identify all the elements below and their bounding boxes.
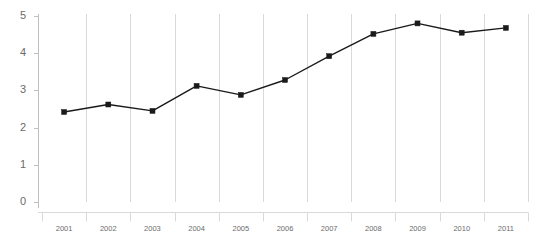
series-markers-0 — [62, 21, 509, 115]
x-axis-tick-label: 2006 — [265, 225, 305, 233]
y-axis-ticks — [34, 17, 39, 203]
y-axis-tick-label: 0 — [4, 196, 26, 207]
x-axis-tick-label: 2002 — [88, 225, 128, 233]
line-chart: 012345 200120022003200420052006200720082… — [0, 0, 536, 240]
y-axis-tick-label: 4 — [4, 47, 26, 58]
x-axis-tick-label: 2010 — [442, 225, 482, 233]
gridlines — [87, 14, 529, 202]
x-axis-tick-label: 2004 — [177, 225, 217, 233]
data-point-marker — [503, 25, 508, 30]
y-axis-tick-label: 5 — [4, 10, 26, 21]
y-axis-tick-label: 2 — [4, 122, 26, 133]
x-axis-tick-label: 2003 — [132, 225, 172, 233]
x-axis-ticks — [43, 213, 529, 222]
data-point-marker — [415, 21, 420, 26]
x-axis-tick-label: 2005 — [221, 225, 261, 233]
data-point-marker — [194, 83, 199, 88]
x-axis-tick-label: 2001 — [44, 225, 84, 233]
chart-plot-area — [0, 0, 536, 240]
data-point-marker — [371, 31, 376, 36]
y-axis-tick-label: 3 — [4, 84, 26, 95]
x-axis-tick-label: 2008 — [353, 225, 393, 233]
y-axis-tick-label: 1 — [4, 159, 26, 170]
x-axis-tick-label: 2007 — [309, 225, 349, 233]
data-point-marker — [106, 102, 111, 107]
x-axis-tick-label: 2011 — [486, 225, 526, 233]
x-axis-tick-label: 2009 — [398, 225, 438, 233]
data-point-marker — [62, 110, 67, 115]
data-point-marker — [283, 78, 288, 83]
data-point-marker — [238, 92, 243, 97]
data-point-marker — [459, 30, 464, 35]
data-point-marker — [327, 54, 332, 59]
data-point-marker — [150, 108, 155, 113]
